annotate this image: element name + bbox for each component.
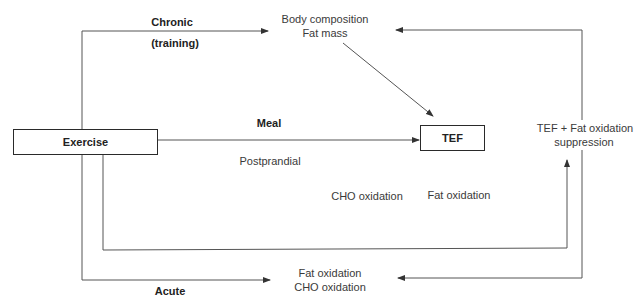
training-label: (training) <box>151 36 199 50</box>
exercise-label: Exercise <box>63 136 108 148</box>
acute-outcome-line2: CHO oxidation <box>294 280 366 294</box>
suppression-to-bodycomp-arrow <box>396 30 582 120</box>
suppression-line1: TEF + Fat oxidation <box>537 121 633 135</box>
suppression-to-acute-arrow <box>398 150 582 278</box>
acute-outcome-line1: Fat oxidation <box>299 266 362 280</box>
chronic-label: Chronic <box>151 15 193 29</box>
bodycomp-to-tef-arrow <box>343 43 433 116</box>
postprandial-label: Postprandial <box>239 154 300 168</box>
body-composition-line1: Body composition <box>282 12 369 26</box>
acute-label: Acute <box>155 284 186 298</box>
exercise-node: Exercise <box>13 129 158 155</box>
suppression-line2: suppression <box>554 135 613 149</box>
tef-node: TEF <box>420 125 485 151</box>
postprandial-cho-oxidation: CHO oxidation <box>331 189 403 203</box>
tef-label: TEF <box>442 132 463 144</box>
body-composition-line2: Fat mass <box>302 26 347 40</box>
acute-arrow <box>82 154 270 280</box>
meal-label: Meal <box>257 116 281 130</box>
postprandial-fat-oxidation: Fat oxidation <box>428 188 491 202</box>
